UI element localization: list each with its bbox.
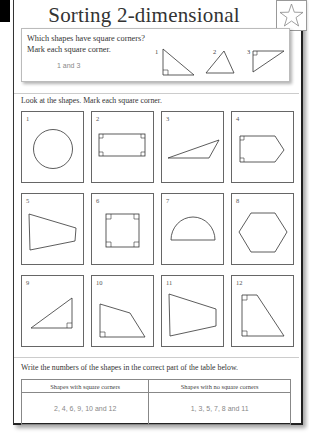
triangle-icon <box>162 112 223 182</box>
shape-cell-5: 5 <box>21 193 84 265</box>
section-divider <box>14 93 299 94</box>
shape-cell-3: 3 <box>161 111 224 183</box>
shape-cell-6: 6 <box>91 193 154 265</box>
hexagon-icon <box>232 194 293 264</box>
shape-cell-12: 12 <box>231 275 294 347</box>
table-header-no-square-corners: Shapes with no square corners <box>149 380 291 393</box>
right-trapezoid-icon <box>232 276 293 346</box>
example-shape-2: 2 <box>202 48 247 80</box>
semicircle-icon <box>162 194 223 264</box>
shape-cell-1: 1 <box>21 111 84 183</box>
example-shape-3: 3 <box>247 48 289 80</box>
sorting-table: Shapes with square corners Shapes with n… <box>21 379 291 425</box>
intro-question-line2: Mark each square corner. <box>27 45 145 56</box>
star-badge <box>276 0 307 31</box>
right-triangle-icon <box>22 276 83 346</box>
shape-cell-7: 7 <box>161 193 224 265</box>
right-triangle-icon <box>155 48 200 80</box>
section1-instruction: Look at the shapes. Mark each square cor… <box>21 96 162 105</box>
shape-cell-11: 11 <box>161 275 224 347</box>
shape-cell-2: 2 <box>91 111 154 183</box>
section-divider <box>14 357 299 358</box>
page-edge-tab <box>0 0 10 22</box>
answer-no-square-corners: 1, 3, 5, 7, 8 and 11 <box>149 393 291 425</box>
shape-cell-9: 9 <box>21 275 84 347</box>
intro-answer: 1 and 3 <box>57 62 80 69</box>
intro-example-box: Which shapes have square corners? Mark e… <box>21 28 290 82</box>
intro-question-line1: Which shapes have square corners? <box>27 34 145 45</box>
circle-icon <box>22 112 83 182</box>
section2-instruction: Write the numbers of the shapes in the c… <box>21 363 238 372</box>
square-icon <box>92 194 153 264</box>
star-icon <box>277 1 306 30</box>
answer-square-corners: 2, 4, 6, 9, 10 and 12 <box>22 393 149 425</box>
shape-cell-10: 10 <box>91 275 154 347</box>
shape-cell-4: 4 <box>231 111 294 183</box>
rectangle-icon <box>92 112 153 182</box>
quadrilateral-icon <box>162 276 223 346</box>
trapezoid-icon <box>22 194 83 264</box>
right-triangle-icon <box>247 48 289 80</box>
table-header-square-corners: Shapes with square corners <box>22 380 149 393</box>
pentagon-icon <box>232 112 293 182</box>
quadrilateral-icon <box>92 276 153 346</box>
intro-question: Which shapes have square corners? Mark e… <box>27 34 145 55</box>
example-shape-1: 1 <box>155 48 200 80</box>
triangle-icon <box>202 48 247 80</box>
shape-cell-8: 8 <box>231 193 294 265</box>
